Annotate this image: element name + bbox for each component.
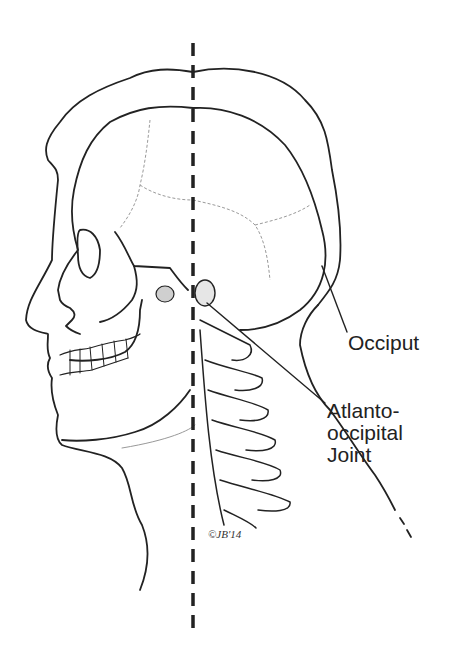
eye-orbit [77,230,100,278]
cheekbone [100,266,137,322]
skull-outline [58,107,193,334]
skin-back-top [193,69,341,305]
label-atlanto-occipital-joint: Atlanto- occipital Joint [327,400,403,466]
cervical-spine [200,320,290,528]
label-joint-line2: occipital [327,422,403,444]
label-joint-line3: Joint [327,444,403,466]
label-occiput: Occiput [348,332,419,354]
tooth-lines [70,339,128,375]
head-outline [26,70,193,590]
throat-line [122,425,195,448]
artist-signature: ©JB'14 [208,528,241,540]
mandible-lower [62,390,190,441]
occiput-leader [322,266,347,332]
skull-sutures [120,120,310,280]
label-joint-line1: Atlanto- [327,400,403,422]
occipital-condyle [195,280,215,306]
zygomatic-arch [115,232,188,290]
neck-back-dashes [400,518,411,537]
mandibular-condyle [156,286,174,302]
mandible [70,300,142,361]
upper-teeth [60,334,140,355]
